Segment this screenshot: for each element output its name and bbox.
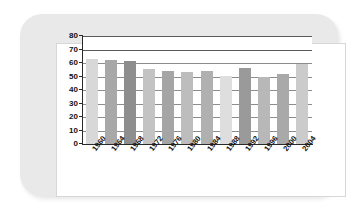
y-tick-label: 0 xyxy=(58,140,78,148)
bar xyxy=(201,71,213,144)
bar-chart: % Voting Age Population 8070605040302010… xyxy=(46,36,318,176)
y-tick-mark xyxy=(79,76,83,77)
y-axis-tick-labels: 80706050403020100 xyxy=(58,36,78,144)
y-tick-label: 70 xyxy=(58,46,78,54)
y-tick-mark xyxy=(79,89,83,90)
y-tick-mark xyxy=(79,103,83,104)
screenshot-root: % Voting Age Population 8070605040302010… xyxy=(0,0,358,210)
y-tick-label: 60 xyxy=(58,59,78,67)
bar xyxy=(143,69,155,144)
y-tick-mark xyxy=(79,116,83,117)
bar xyxy=(220,76,232,144)
y-axis-line xyxy=(82,35,83,145)
bar-series xyxy=(82,36,312,144)
y-tick-label: 40 xyxy=(58,86,78,94)
bar xyxy=(124,61,136,144)
bar xyxy=(258,77,270,145)
y-tick-mark xyxy=(79,49,83,50)
y-tick-label: 20 xyxy=(58,113,78,121)
bar xyxy=(105,60,117,144)
y-tick-label: 30 xyxy=(58,100,78,108)
bar xyxy=(181,72,193,144)
bar xyxy=(86,59,98,144)
x-axis-tick-labels: 1960196419681972197619801984198819921996… xyxy=(82,146,312,176)
y-tick-label: 50 xyxy=(58,73,78,81)
plot-area xyxy=(82,36,312,144)
bar xyxy=(296,64,308,144)
y-tick-mark xyxy=(79,35,83,36)
bar xyxy=(239,68,251,144)
bar xyxy=(277,74,289,144)
y-tick-label: 80 xyxy=(58,32,78,40)
y-tick-label: 10 xyxy=(58,127,78,135)
bar xyxy=(162,71,174,144)
y-tick-mark xyxy=(79,62,83,63)
y-tick-mark xyxy=(79,130,83,131)
